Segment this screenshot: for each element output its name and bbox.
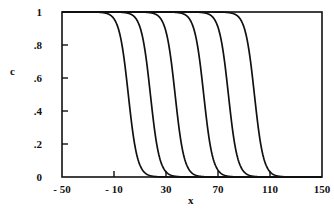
breakthrough-curve xyxy=(62,12,322,177)
breakthrough-curve xyxy=(62,12,322,177)
plot-frame xyxy=(62,12,322,177)
y-tick-label: 0 xyxy=(37,171,43,183)
breakthrough-curve xyxy=(62,12,322,177)
x-tick-label: 150 xyxy=(314,183,331,195)
x-tick-label: - 10 xyxy=(105,183,123,195)
x-axis-ticks: - 50- 103070110150 xyxy=(53,171,330,195)
y-tick-label: .4 xyxy=(34,105,43,117)
x-tick-label: 110 xyxy=(262,183,278,195)
y-tick-label: .6 xyxy=(34,72,43,84)
breakthrough-curve xyxy=(62,12,322,177)
x-tick-label: - 50 xyxy=(53,183,71,195)
chart-canvas: 0.2.4.6.81 - 50- 103070110150 c x xyxy=(0,0,334,213)
breakthrough-curve xyxy=(62,12,322,177)
x-axis-label: x xyxy=(188,194,194,206)
y-tick-label: 1 xyxy=(37,6,43,18)
y-axis-ticks: 0.2.4.6.81 xyxy=(34,6,68,183)
x-tick-label: 70 xyxy=(213,183,225,195)
breakthrough-curve xyxy=(62,12,322,177)
y-tick-label: .2 xyxy=(34,138,43,150)
y-axis-label: c xyxy=(10,65,15,77)
x-tick-label: 30 xyxy=(161,183,173,195)
y-tick-label: .8 xyxy=(34,39,43,51)
curves-group xyxy=(62,12,322,177)
